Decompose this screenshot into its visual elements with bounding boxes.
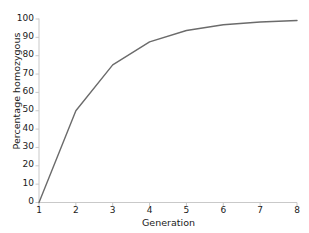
x-tick-label: 3 <box>103 205 123 215</box>
x-tick-label: 8 <box>287 205 307 215</box>
x-tick-label: 5 <box>176 205 196 215</box>
data-series-line <box>39 20 297 202</box>
x-tick-label: 4 <box>140 205 160 215</box>
x-axis-title: Generation <box>39 217 298 228</box>
x-tick-label: 2 <box>66 205 86 215</box>
chart-container: Percentage homozygous 100 90 80 70 60 50… <box>0 0 309 233</box>
x-tick-label: 1 <box>29 205 49 215</box>
x-tick-label: 6 <box>213 205 233 215</box>
plot-area <box>0 0 309 233</box>
x-tick-label: 7 <box>250 205 270 215</box>
